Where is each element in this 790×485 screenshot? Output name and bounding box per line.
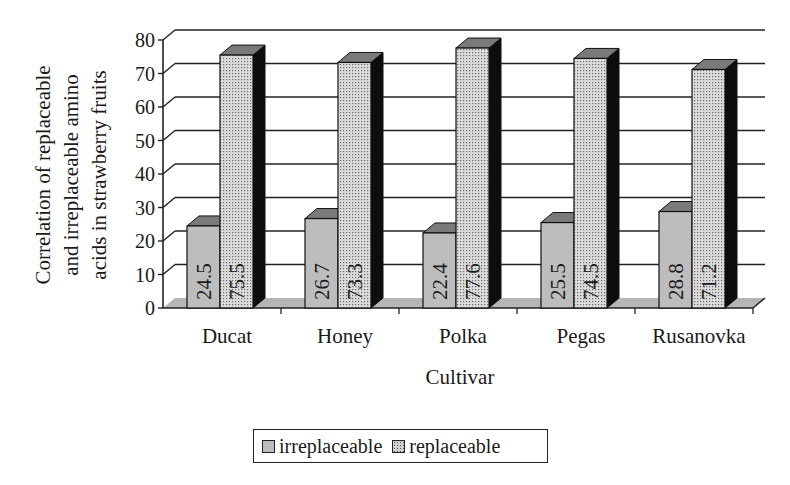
data-label: 24.5	[192, 263, 216, 300]
data-label: 26.7	[310, 263, 334, 300]
x-tick-label: Ducat	[202, 324, 252, 348]
legend-item-irreplaceable: irreplaceable	[262, 435, 382, 458]
legend: irreplaceable replaceable	[253, 429, 548, 463]
y-tick-label: 0	[145, 297, 155, 319]
legend-label: replaceable	[409, 435, 500, 458]
y-tick-label: 20	[135, 230, 155, 252]
data-label: 25.5	[546, 263, 570, 300]
x-tick-label: Pegas	[557, 324, 606, 348]
y-tick-label: 80	[135, 29, 155, 51]
bar-replaceable-pegas: 74.5	[574, 48, 619, 308]
chart: 0102030405060708024.575.5Ducat26.773.3Ho…	[0, 0, 790, 485]
legend-swatch-replaceable	[392, 440, 405, 453]
y-tick-label: 60	[135, 96, 155, 118]
legend-item-replaceable: replaceable	[392, 435, 500, 458]
y-axis-title-line: Correlation of replaceable	[31, 65, 55, 284]
x-tick-label: Rusanovka	[652, 324, 746, 348]
data-label: 74.5	[579, 263, 603, 300]
bar-replaceable-ducat: 75.5	[220, 45, 265, 308]
data-label: 71.2	[697, 263, 721, 300]
data-label: 22.4	[428, 263, 452, 300]
x-axis-title: Cultivar	[426, 365, 495, 389]
data-label: 77.6	[461, 263, 485, 300]
data-label: 75.5	[225, 263, 249, 300]
y-tick-label: 50	[135, 130, 155, 152]
x-tick-label: Honey	[317, 324, 373, 348]
legend-label: irreplaceable	[279, 435, 382, 458]
y-tick-label: 70	[135, 63, 155, 85]
bar-replaceable-honey: 73.3	[338, 52, 383, 308]
bar-replaceable-rusanovka: 71.2	[692, 59, 737, 308]
data-label: 73.3	[343, 263, 367, 300]
y-tick-label: 30	[135, 197, 155, 219]
bar-replaceable-polka: 77.6	[456, 38, 501, 308]
y-axis-title-line: acids in strawberry fruits	[87, 70, 111, 279]
data-label: 28.8	[664, 263, 688, 300]
y-tick-label: 40	[135, 163, 155, 185]
y-axis-title-line: and irreplaceable amino	[59, 74, 83, 276]
y-tick-label: 10	[135, 264, 155, 286]
legend-swatch-irreplaceable	[262, 440, 275, 453]
x-tick-label: Polka	[439, 324, 488, 348]
bar-chart-3d: 0102030405060708024.575.5Ducat26.773.3Ho…	[0, 0, 790, 485]
